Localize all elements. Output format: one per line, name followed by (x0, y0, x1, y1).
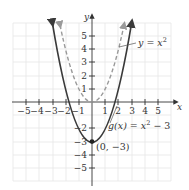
svg-text:−5: −5 (17, 106, 31, 116)
svg-text:−4: −4 (30, 106, 44, 116)
svg-text:−2: −2 (57, 106, 70, 116)
svg-text:2: 2 (81, 71, 87, 81)
x-tick-labels: −5 −4 −3 −2 −1 1 2 3 4 5 (17, 106, 161, 116)
vertex-label: (0, −3) (96, 141, 130, 152)
svg-text:5: 5 (81, 31, 87, 41)
y-axis-label: y (83, 12, 90, 22)
svg-text:4: 4 (142, 106, 148, 116)
svg-text:2: 2 (115, 106, 121, 116)
label-g-of-x: g(x) = x2 − 3 (108, 119, 170, 131)
svg-text:3: 3 (129, 106, 135, 116)
label-y-equals-x-squared: y = x2 (137, 36, 167, 48)
svg-text:−3: −3 (44, 106, 58, 116)
x-axis-label: x (177, 102, 182, 112)
svg-text:4: 4 (81, 44, 87, 54)
svg-text:−5: −5 (74, 163, 88, 173)
svg-text:5: 5 (155, 106, 161, 116)
vertex-point (90, 139, 95, 144)
svg-text:1: 1 (81, 84, 87, 94)
svg-text:−4: −4 (74, 150, 88, 160)
svg-text:3: 3 (81, 57, 87, 67)
graph: −5 −4 −3 −2 −1 1 2 3 4 5 1 2 3 4 5 −2 −3… (0, 0, 189, 190)
svg-text:1: 1 (102, 106, 108, 116)
